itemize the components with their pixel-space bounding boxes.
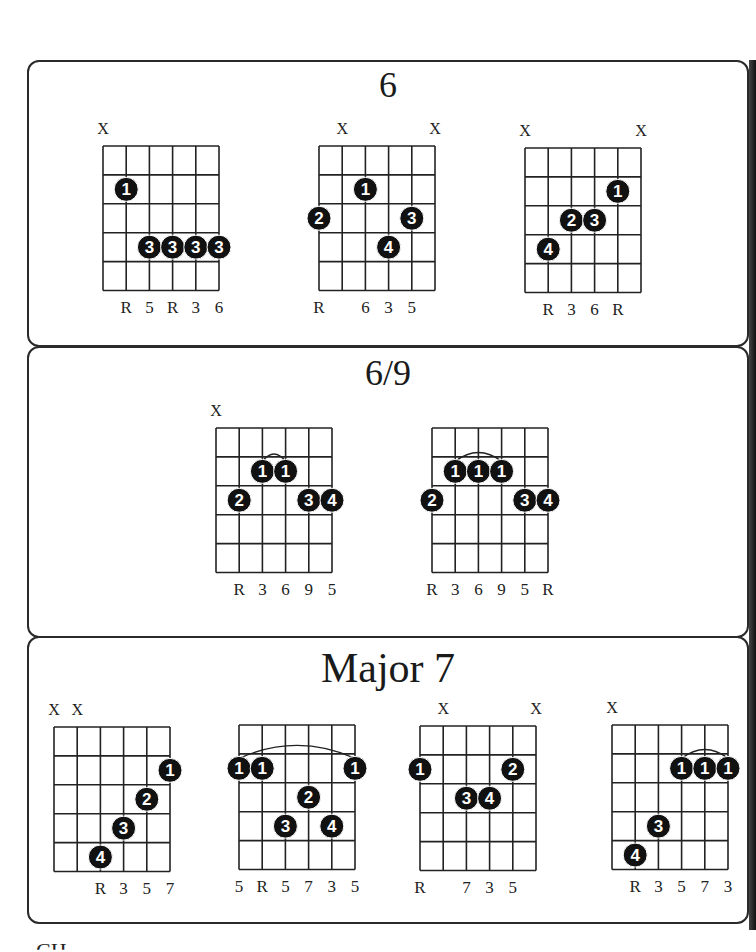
interval-label: R <box>542 580 554 599</box>
chord-diagram: XX1234R357 <box>48 701 182 898</box>
interval-label: R <box>257 877 269 896</box>
muted-string-marker: X <box>210 402 222 419</box>
finger-number: 2 <box>142 790 151 809</box>
muted-string-marker: X <box>635 122 647 139</box>
interval-label: 6 <box>215 298 224 317</box>
interval-label: R <box>167 298 179 317</box>
interval-label: R <box>543 300 555 319</box>
interval-label: 3 <box>384 298 393 317</box>
finger-number: 1 <box>613 182 622 201</box>
finger-number: 3 <box>168 238 177 257</box>
chord-diagram: X13333R5R36 <box>97 120 231 317</box>
muted-string-marker: X <box>71 701 83 718</box>
finger-number: 2 <box>234 491 243 510</box>
finger-number: 2 <box>567 211 576 230</box>
interval-label: 5 <box>677 877 686 896</box>
interval-label: R <box>630 877 642 896</box>
interval-label: 7 <box>166 879 175 898</box>
finger-number: 1 <box>497 462 506 481</box>
interval-label: R <box>234 580 246 599</box>
interval-label: 7 <box>304 877 313 896</box>
interval-label: 5 <box>509 878 518 897</box>
muted-string-marker: X <box>606 699 618 716</box>
finger-number: 3 <box>214 238 223 257</box>
finger-number: 4 <box>543 491 553 510</box>
finger-number: 3 <box>407 209 416 228</box>
finger-number: 3 <box>590 211 599 230</box>
muted-string-marker: X <box>519 122 531 139</box>
finger-number: 4 <box>327 491 337 510</box>
chord-diagram: X11234R3695 <box>210 402 344 599</box>
muted-string-marker: X <box>48 701 60 718</box>
finger-number: 3 <box>281 817 290 836</box>
finger-number: 4 <box>485 789 495 808</box>
finger-number: 3 <box>462 789 471 808</box>
finger-number: 1 <box>257 759 266 778</box>
interval-label: 6 <box>590 300 599 319</box>
interval-label: 3 <box>485 878 494 897</box>
finger-number: 4 <box>327 817 337 836</box>
interval-label: R <box>313 298 325 317</box>
chord-diagram: 1112345R5735 <box>227 725 367 896</box>
interval-label: 6 <box>281 580 290 599</box>
finger-number: 3 <box>191 238 200 257</box>
interval-label: 5 <box>143 879 152 898</box>
interval-label: 5 <box>408 298 417 317</box>
finger-number: 1 <box>361 180 370 199</box>
interval-label: R <box>426 580 438 599</box>
finger-number: 3 <box>304 491 313 510</box>
chord-diagram: XX1234R635 <box>307 120 441 317</box>
finger-number: 1 <box>281 462 290 481</box>
muted-string-marker: X <box>437 700 449 717</box>
interval-label: 3 <box>451 580 460 599</box>
interval-label: 3 <box>567 300 576 319</box>
interval-label: 3 <box>654 877 663 896</box>
finger-number: 1 <box>474 462 483 481</box>
finger-number: 3 <box>119 819 128 838</box>
finger-number: 2 <box>427 491 436 510</box>
barre-arc <box>239 745 355 758</box>
interval-label: 3 <box>724 877 733 896</box>
interval-label: 7 <box>462 878 471 897</box>
finger-number: 3 <box>520 491 529 510</box>
interval-label: 3 <box>328 877 337 896</box>
muted-string-marker: X <box>429 120 441 137</box>
interval-label: 9 <box>497 580 506 599</box>
muted-string-marker: X <box>530 700 542 717</box>
finger-number: 1 <box>723 759 732 778</box>
chord-diagram: 111234R3695R <box>420 428 560 599</box>
interval-label: 6 <box>361 298 370 317</box>
finger-number: 1 <box>350 759 359 778</box>
finger-number: 1 <box>677 759 686 778</box>
interval-label: 7 <box>701 877 710 896</box>
interval-label: 5 <box>281 877 290 896</box>
finger-number: 1 <box>165 761 174 780</box>
interval-label: R <box>414 878 426 897</box>
interval-label: 3 <box>119 879 128 898</box>
finger-number: 1 <box>258 462 267 481</box>
finger-number: 3 <box>654 817 663 836</box>
finger-number: 1 <box>700 759 709 778</box>
chord-diagrams-layer: X13333R5R36XX1234R635XX1234R36RX11234R36… <box>0 0 756 952</box>
interval-label: 5 <box>145 298 154 317</box>
finger-number: 1 <box>121 180 130 199</box>
interval-label: 5 <box>328 580 337 599</box>
finger-number: 4 <box>543 240 553 259</box>
chord-diagram: XX1234R36R <box>519 122 647 319</box>
muted-string-marker: X <box>97 120 109 137</box>
chord-diagram: XX1234R735 <box>408 700 542 897</box>
interval-label: 9 <box>305 580 314 599</box>
interval-label: R <box>121 298 133 317</box>
interval-label: 3 <box>192 298 201 317</box>
finger-number: 4 <box>630 846 640 865</box>
finger-number: 4 <box>384 238 394 257</box>
finger-number: 2 <box>314 209 323 228</box>
chord-diagram: X11134R3573 <box>606 699 740 896</box>
interval-label: 5 <box>521 580 530 599</box>
interval-label: R <box>612 300 624 319</box>
interval-label: R <box>95 879 107 898</box>
finger-number: 2 <box>304 788 313 807</box>
interval-label: 3 <box>258 580 267 599</box>
interval-label: 5 <box>351 877 360 896</box>
finger-number: 4 <box>96 848 106 867</box>
